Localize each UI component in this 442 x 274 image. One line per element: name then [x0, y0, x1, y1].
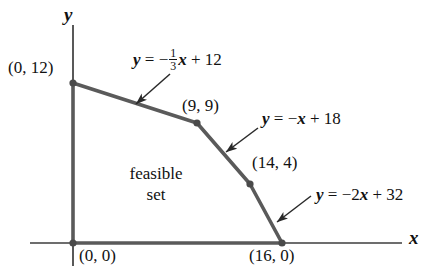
eq1-fraction: 13 [169, 47, 177, 72]
equation-label-neg-2x-32: y = −2x + 32 [316, 186, 403, 203]
feasible-set-figure: y x (0, 12) (0, 0) (9, 9) (14, 4) (16, 0… [0, 0, 442, 274]
boundary-segment-one-third [73, 83, 197, 123]
vertex-label-origin: (0, 0) [79, 247, 116, 264]
leader-arrow-one-third [136, 74, 170, 104]
eq1-fraction-denominator: 3 [169, 59, 177, 72]
eq2-equals: = [274, 109, 284, 128]
eq1-plus: + [191, 50, 201, 69]
vertex-dot-origin [69, 239, 76, 246]
vertex-label-y-intercept: (0, 12) [8, 59, 53, 76]
vertex-label-nine-nine: (9, 9) [182, 97, 219, 114]
leader-arrow-neg-2x-32 [277, 196, 311, 222]
vertex-dot-y-intercept [69, 79, 76, 86]
eq1-sign: − [159, 50, 169, 69]
feasible-set-label: feasible set [104, 163, 208, 206]
equation-label-one-third: y = −13x + 12 [133, 47, 222, 72]
eq2-plus: + [310, 109, 320, 128]
eq3-variable: x [360, 185, 369, 204]
eq3-lhs: y [316, 185, 324, 204]
eq3-intercept: 32 [386, 185, 403, 204]
eq2-lhs: y [262, 109, 270, 128]
eq3-sign: − [342, 185, 352, 204]
eq1-equals: = [145, 50, 155, 69]
vertex-label-fourteen-four: (14, 4) [252, 154, 297, 171]
eq1-fraction-numerator: 1 [169, 47, 177, 59]
x-axis-label: x [409, 228, 419, 247]
eq2-intercept: 18 [324, 109, 341, 128]
eq2-variable: x [297, 109, 306, 128]
vertex-dot-fourteen-four [246, 180, 253, 187]
eq1-lhs: y [133, 50, 141, 69]
feasible-set-label-line2: set [147, 185, 166, 204]
eq3-equals: = [328, 185, 338, 204]
equation-label-neg-x-18: y = −x + 18 [262, 110, 341, 127]
feasible-set-label-line1: feasible [130, 164, 183, 183]
vertex-label-x-intercept: (16, 0) [249, 247, 294, 264]
y-axis-label: y [64, 5, 72, 24]
leader-arrow-neg-x-18 [226, 128, 258, 152]
vertex-dot-nine-nine [193, 119, 200, 126]
eq3-plus: + [372, 185, 382, 204]
eq3-coefficient: 2 [351, 185, 360, 204]
boundary-segment-neg-2x-32 [250, 184, 282, 243]
eq1-variable: x [178, 50, 187, 69]
eq2-sign: − [288, 109, 298, 128]
feasible-set-plot [0, 0, 442, 274]
eq1-intercept: 12 [205, 50, 222, 69]
